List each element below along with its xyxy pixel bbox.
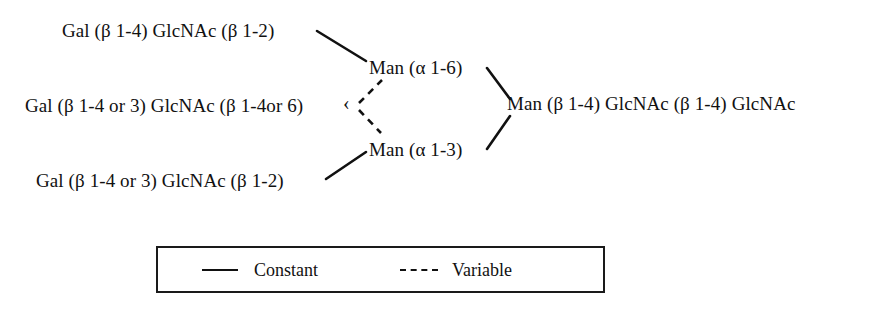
- connector-man13-to-core: [487, 116, 510, 149]
- dashed-line-icon: [400, 269, 438, 271]
- node-lower-antenna: Gal (β 1-4 or 3) GlcNAc (β 1-2): [36, 170, 284, 192]
- connector-variable-lower-dashed: [359, 110, 381, 133]
- connector-upper-antenna-to-man16: [317, 31, 366, 61]
- connector-variable-upper-dashed: [359, 80, 382, 103]
- legend-label-variable: Variable: [452, 260, 512, 280]
- legend: Constant Variable: [156, 246, 605, 293]
- legend-item-constant: Constant: [202, 260, 318, 280]
- node-man-alpha-1-3: Man (α 1-3): [369, 139, 462, 161]
- node-middle-antenna: Gal (β 1-4 or 3) GlcNAc (β 1-4or 6): [25, 95, 303, 117]
- node-man-alpha-1-6: Man (α 1-6): [369, 57, 462, 79]
- glycan-structure-diagram: Gal (β 1-4) GlcNAc (β 1-2) Gal (β 1-4 or…: [0, 0, 876, 311]
- solid-line-icon: [202, 269, 238, 271]
- legend-item-variable: Variable: [400, 260, 512, 280]
- legend-label-constant: Constant: [254, 260, 318, 280]
- node-core: Man (β 1-4) GlcNAc (β 1-4) GlcNAc: [507, 93, 796, 115]
- node-upper-antenna: Gal (β 1-4) GlcNAc (β 1-2): [62, 20, 274, 42]
- bracket-icon: ‹: [343, 92, 350, 114]
- connector-lower-antenna-to-man13: [326, 152, 366, 179]
